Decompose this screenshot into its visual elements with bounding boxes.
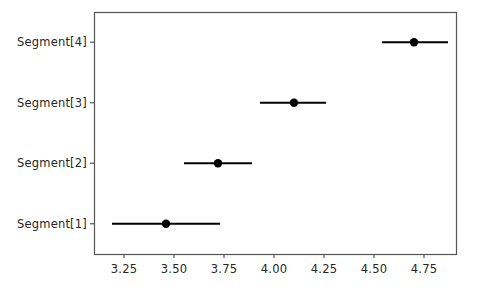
x-axis-tick-label: 4.75 <box>411 262 437 276</box>
y-axis-tick-label-Segment1: Segment[1] <box>17 217 87 231</box>
y-axis-tick-label-Segment3: Segment[3] <box>17 96 87 110</box>
x-axis-tick-label: 4.25 <box>311 262 337 276</box>
data-series-interval-plot <box>112 38 448 228</box>
x-axis-tick-label: 3.50 <box>161 262 187 276</box>
data-point-marker <box>162 220 170 228</box>
plot-border <box>95 13 457 255</box>
y-axis-ticks <box>90 42 94 224</box>
interval-point-Segment[1] <box>112 220 220 228</box>
interval-point-Segment[3] <box>260 99 326 107</box>
data-point-marker <box>214 159 222 167</box>
axes-spines <box>95 13 457 255</box>
y-axis-tick-label-Segment4: Segment[4] <box>17 35 87 49</box>
data-point-marker <box>410 38 418 46</box>
data-point-marker <box>290 99 298 107</box>
x-axis-tick-label: 3.75 <box>211 262 237 276</box>
x-axis-tick-label: 4.00 <box>261 262 287 276</box>
interval-point-Segment[4] <box>382 38 448 46</box>
figure-canvas: 3.253.503.754.004.254.504.75 Segment[4]S… <box>0 0 479 293</box>
interval-point-Segment[2] <box>184 159 252 167</box>
y-axis-tick-label-Segment2: Segment[2] <box>17 156 87 170</box>
x-axis-tick-label: 3.25 <box>111 262 137 276</box>
x-axis-tick-label: 4.50 <box>361 262 387 276</box>
